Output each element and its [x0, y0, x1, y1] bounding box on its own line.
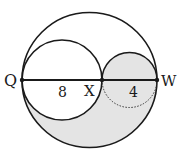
shaded-region-upper-right: [102, 52, 157, 80]
label-X: X: [84, 82, 95, 100]
label-length-8: 8: [58, 84, 67, 100]
label-length-4: 4: [129, 84, 138, 100]
label-W: W: [161, 72, 177, 90]
point-W: [155, 78, 159, 82]
label-Q: Q: [4, 71, 17, 90]
point-X: [100, 78, 104, 82]
circle-diagram: Q W X 8 4: [0, 0, 183, 155]
point-Q: [20, 78, 24, 82]
